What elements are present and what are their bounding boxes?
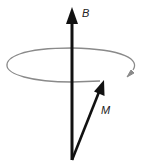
b-label: B bbox=[82, 7, 89, 19]
m-vector-shaft bbox=[72, 92, 99, 160]
b-vector bbox=[66, 7, 78, 160]
m-vector bbox=[72, 80, 105, 160]
b-arrowhead-icon bbox=[66, 7, 78, 24]
precession-diagram: B M bbox=[0, 0, 143, 165]
m-label: M bbox=[101, 104, 111, 116]
m-arrowhead-icon bbox=[94, 80, 105, 96]
orbit-direction-arrow-icon bbox=[127, 70, 134, 77]
